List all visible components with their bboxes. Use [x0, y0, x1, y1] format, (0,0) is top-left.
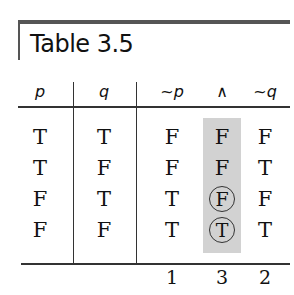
- title-top-rule: [18, 20, 290, 24]
- table-cell: T: [152, 184, 192, 214]
- step-number: 2: [245, 266, 285, 288]
- bottom-rule: [21, 263, 290, 265]
- header-not-q: ~q: [245, 82, 285, 101]
- column-divider-1: [73, 82, 74, 264]
- header-rule: [18, 106, 290, 108]
- table-cell-circled: F: [202, 184, 242, 214]
- table-cell: T: [245, 153, 285, 183]
- table-cell: F: [152, 153, 192, 183]
- table-cell: F: [202, 153, 242, 183]
- header-and: ∧: [202, 82, 242, 101]
- header-not-p: ~p: [152, 82, 192, 101]
- table-cell: T: [20, 153, 60, 183]
- circled-value: F: [209, 186, 235, 212]
- table-cell: T: [20, 122, 60, 152]
- table-cell: T: [152, 215, 192, 245]
- table-cell: F: [152, 122, 192, 152]
- header-q: q: [84, 82, 124, 101]
- table-cell: F: [245, 184, 285, 214]
- table-cell: F: [202, 122, 242, 152]
- table-cell: F: [245, 122, 285, 152]
- step-number: 1: [152, 266, 192, 288]
- step-number: 3: [202, 266, 242, 288]
- table-cell: T: [84, 122, 124, 152]
- table-cell: T: [84, 184, 124, 214]
- table-cell-circled: T: [202, 215, 242, 245]
- column-divider-2: [136, 82, 137, 264]
- table-cell: F: [20, 184, 60, 214]
- table-cell: T: [245, 215, 285, 245]
- title-left-rule: [18, 24, 20, 60]
- table-cell: F: [84, 153, 124, 183]
- table-cell: F: [20, 215, 60, 245]
- header-p: p: [20, 82, 60, 101]
- circled-value: T: [209, 217, 235, 243]
- table-cell: F: [84, 215, 124, 245]
- table-title: Table 3.5: [30, 30, 133, 58]
